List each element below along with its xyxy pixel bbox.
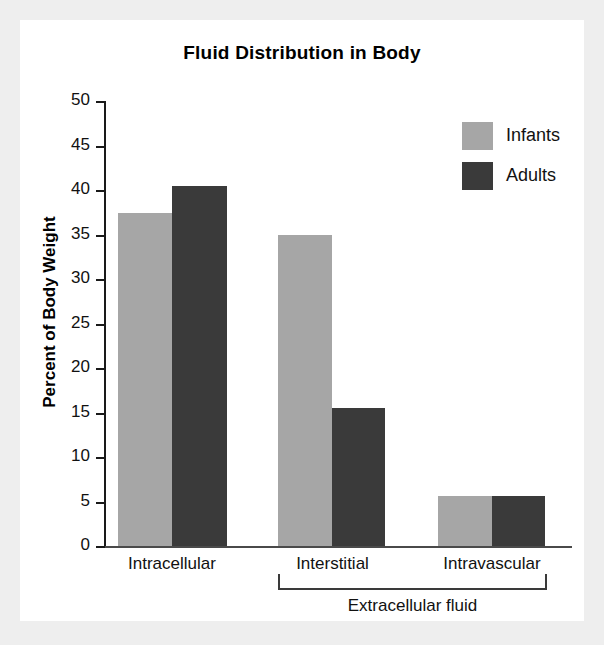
y-tick-label-0: 0 <box>44 536 90 553</box>
y-tick-25 <box>96 324 105 326</box>
y-tick-0 <box>96 546 105 548</box>
y-tick-label-40: 40 <box>44 180 90 197</box>
bracket-right-tick <box>545 574 547 590</box>
x-axis-line <box>104 546 572 548</box>
bar-intravascular-adults <box>492 496 545 546</box>
bracket-line <box>278 588 547 590</box>
y-tick-5 <box>96 502 105 504</box>
y-tick-label-50: 50 <box>44 91 90 108</box>
y-tick-20 <box>96 368 105 370</box>
y-tick-label-5: 5 <box>44 492 90 509</box>
bracket-label: Extracellular fluid <box>278 596 547 616</box>
y-tick-35 <box>96 235 105 237</box>
x-category-label-interstitial: Interstitial <box>260 554 405 574</box>
x-category-label-intracellular: Intracellular <box>86 554 258 574</box>
legend-swatch-adults-icon <box>462 162 493 190</box>
bar-intravascular-infants <box>438 496 492 546</box>
y-tick-15 <box>96 413 105 415</box>
bar-intracellular-infants <box>118 213 172 546</box>
bar-intracellular-adults <box>172 186 227 546</box>
y-tick-label-10: 10 <box>44 447 90 464</box>
y-tick-label-45: 45 <box>44 136 90 153</box>
y-tick-label-15: 15 <box>44 403 90 420</box>
legend-swatch-infants-icon <box>462 122 493 150</box>
x-category-label-intravascular: Intravascular <box>416 554 568 574</box>
y-tick-30 <box>96 279 105 281</box>
legend-label-adults: Adults <box>506 165 556 186</box>
y-tick-10 <box>96 457 105 459</box>
y-tick-40 <box>96 190 105 192</box>
y-tick-50 <box>96 101 105 103</box>
bar-interstitial-adults <box>332 408 385 546</box>
y-tick-45 <box>96 146 105 148</box>
legend-label-infants: Infants <box>506 125 560 146</box>
y-tick-label-30: 30 <box>44 269 90 286</box>
bar-interstitial-infants <box>278 235 332 547</box>
chart-panel: Fluid Distribution in Body Percent of Bo… <box>20 20 584 621</box>
y-tick-label-20: 20 <box>44 358 90 375</box>
y-tick-label-25: 25 <box>44 314 90 331</box>
plot-area: Percent of Body Weight 50 45 40 35 30 25… <box>20 20 584 621</box>
figure-root: Fluid Distribution in Body Percent of Bo… <box>0 0 604 645</box>
y-tick-label-35: 35 <box>44 225 90 242</box>
